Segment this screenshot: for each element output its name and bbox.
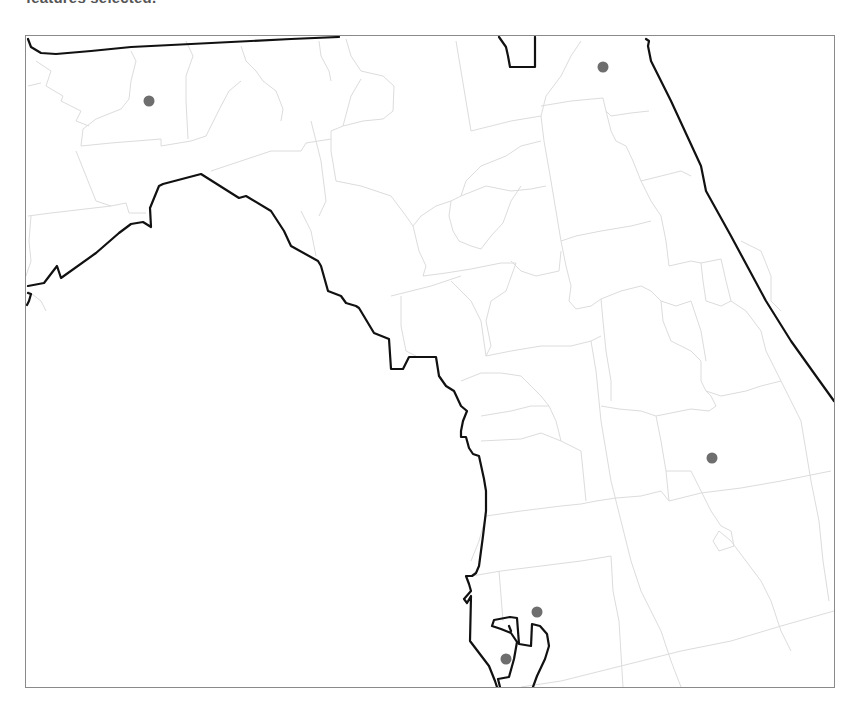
point-marker-5[interactable] [501, 654, 512, 665]
bay-peninsula-coastline [492, 617, 549, 687]
map-canvas[interactable] [25, 35, 835, 688]
point-marker-2[interactable] [598, 62, 609, 73]
point-marker-4[interactable] [532, 607, 543, 618]
bay-inlet [509, 626, 511, 631]
gulf-coastline [28, 174, 497, 687]
point-marker-3[interactable] [707, 453, 718, 464]
north-notch-border [499, 37, 535, 67]
point-markers [144, 62, 718, 665]
point-marker-1[interactable] [144, 96, 155, 107]
north-state-border [28, 37, 339, 54]
east-coastline [646, 39, 834, 401]
county-boundaries [26, 39, 834, 687]
selection-status: features selected. [26, 0, 156, 6]
west-islet [27, 293, 31, 305]
map-svg[interactable] [26, 36, 834, 687]
